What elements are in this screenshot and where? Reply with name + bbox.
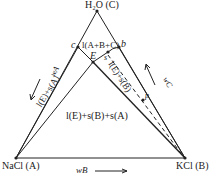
point-label-p: p	[145, 92, 149, 100]
point-c	[76, 45, 79, 48]
point-label-b: b	[121, 39, 126, 49]
vertex-label-c: H₂O (C)	[85, 0, 119, 10]
vertex-label-b: KCl (B)	[176, 161, 209, 171]
ternary-phase-diagram	[0, 0, 215, 185]
point-label-e: E	[90, 51, 96, 61]
vertex-label-a: NaCl (A)	[2, 161, 40, 171]
region-label-center: l(E)+s(B)+s(A)	[66, 111, 128, 121]
point-label-c: c	[71, 40, 75, 50]
tie-cA	[16, 47, 78, 158]
axis-label-bottom: wB	[76, 166, 88, 175]
point-label-s: s	[104, 54, 107, 62]
arrow-right	[146, 65, 155, 85]
region-label-top: l(A+B+C)	[82, 41, 119, 50]
tie-bB	[119, 47, 185, 158]
